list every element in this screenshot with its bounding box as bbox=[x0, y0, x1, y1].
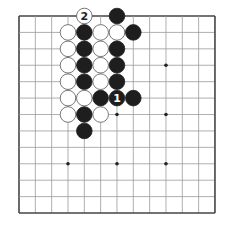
black-stone bbox=[109, 8, 125, 24]
hoshi-point bbox=[164, 63, 168, 67]
black-stone bbox=[77, 25, 93, 41]
white-stone bbox=[93, 41, 109, 57]
move-number: 1 bbox=[113, 92, 121, 105]
black-stone bbox=[109, 57, 125, 73]
hoshi-point bbox=[164, 113, 168, 117]
white-stone bbox=[60, 41, 76, 57]
move-number: 2 bbox=[80, 10, 88, 23]
white-stone bbox=[60, 25, 76, 41]
white-stone-2: 2 bbox=[77, 8, 93, 24]
white-stone bbox=[60, 107, 76, 123]
black-stone bbox=[126, 25, 142, 41]
hoshi-point bbox=[164, 162, 168, 166]
go-board: 21 bbox=[0, 0, 229, 232]
white-stone bbox=[93, 107, 109, 123]
black-stone bbox=[77, 74, 93, 90]
hoshi-point bbox=[115, 113, 119, 117]
white-stone bbox=[60, 57, 76, 73]
white-stone bbox=[93, 57, 109, 73]
white-stone bbox=[93, 74, 109, 90]
black-stone bbox=[77, 123, 93, 139]
black-stone bbox=[109, 41, 125, 57]
white-stone bbox=[60, 74, 76, 90]
white-stone bbox=[77, 90, 93, 106]
white-stone bbox=[60, 90, 76, 106]
black-stone-1: 1 bbox=[109, 90, 125, 106]
hoshi-point bbox=[115, 162, 119, 166]
black-stone bbox=[77, 41, 93, 57]
white-stone bbox=[109, 25, 125, 41]
white-stone bbox=[93, 25, 109, 41]
black-stone bbox=[109, 74, 125, 90]
black-stone bbox=[77, 107, 93, 123]
black-stone bbox=[77, 57, 93, 73]
black-stone bbox=[93, 90, 109, 106]
hoshi-point bbox=[66, 162, 70, 166]
black-stone bbox=[126, 90, 142, 106]
